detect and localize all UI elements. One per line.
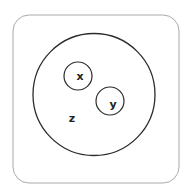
set-z-circle <box>33 34 155 156</box>
set-x-label: x <box>76 70 83 83</box>
set-z-label: z <box>69 112 75 125</box>
set-y-label: y <box>109 98 116 111</box>
euler-diagram: x y z <box>0 0 192 190</box>
